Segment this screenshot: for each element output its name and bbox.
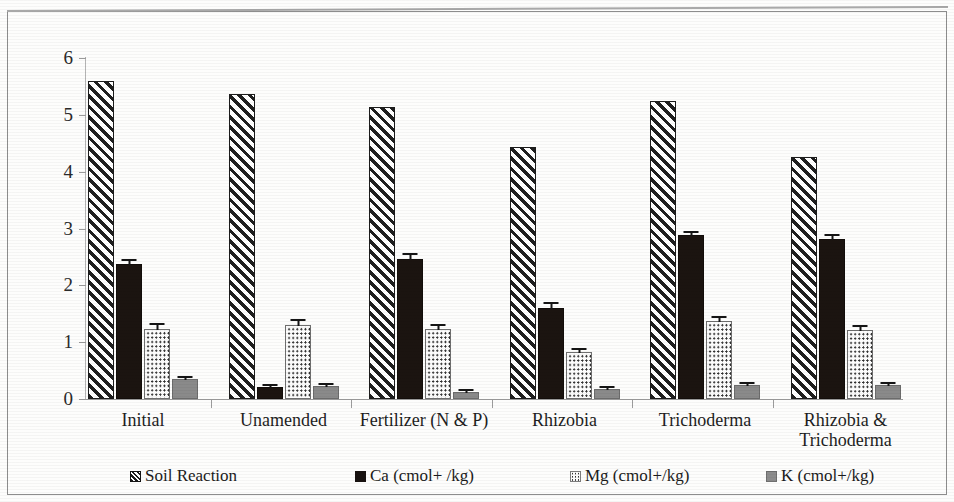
legend-swatch-icon bbox=[766, 471, 777, 482]
error-bar-stem bbox=[157, 323, 159, 330]
bar bbox=[819, 239, 845, 399]
bar bbox=[397, 259, 423, 399]
error-bar-stem bbox=[325, 383, 327, 387]
error-bar bbox=[122, 259, 137, 265]
x-axis-category-label-line: Rhizobia & bbox=[761, 410, 931, 430]
error-bar bbox=[824, 234, 839, 240]
y-axis-tick: 5 bbox=[26, 115, 73, 116]
error-bar-stem bbox=[550, 302, 552, 309]
y-axis-tick-label: 1 bbox=[33, 332, 73, 351]
bar bbox=[229, 94, 255, 399]
error-bar-stem bbox=[719, 316, 721, 322]
error-bar-cap bbox=[262, 384, 277, 386]
chart-legend: Soil ReactionCa (cmol+ /kg)Mg (cmol+/kg)… bbox=[0, 466, 954, 494]
error-bar-stem bbox=[831, 234, 833, 240]
legend-item[interactable]: K (cmol+/kg) bbox=[766, 466, 874, 486]
error-bar-cap bbox=[880, 382, 895, 384]
y-axis-tick-label: 2 bbox=[33, 275, 73, 294]
bar-group-bars bbox=[88, 58, 198, 399]
bar bbox=[369, 107, 395, 399]
error-bar bbox=[740, 382, 755, 386]
error-bar-cap bbox=[122, 259, 137, 261]
legend-swatch-icon bbox=[570, 471, 581, 482]
plot-canvas: 6543210 InitialUnamendedFertilizer (N & … bbox=[0, 0, 954, 502]
error-bar-stem bbox=[747, 382, 749, 386]
error-bar-cap bbox=[571, 348, 586, 350]
y-axis-tick-label: 3 bbox=[33, 219, 73, 238]
error-bar-cap bbox=[712, 316, 727, 318]
error-bar bbox=[262, 384, 277, 388]
bar bbox=[144, 329, 170, 399]
bar bbox=[116, 264, 142, 399]
legend-item[interactable]: Ca (cmol+ /kg) bbox=[355, 466, 474, 486]
y-axis-tick: 4 bbox=[26, 172, 73, 173]
bar bbox=[734, 385, 760, 399]
bar bbox=[425, 329, 451, 399]
error-bar bbox=[178, 376, 193, 380]
bar bbox=[875, 385, 901, 399]
error-bar-cap bbox=[178, 376, 193, 378]
bar-group-bars bbox=[650, 58, 760, 399]
error-bar-cap bbox=[318, 383, 333, 385]
error-bar bbox=[712, 316, 727, 322]
error-bar-cap bbox=[740, 382, 755, 384]
error-bar-stem bbox=[297, 319, 299, 326]
error-bar-stem bbox=[185, 376, 187, 380]
error-bar bbox=[459, 389, 474, 393]
error-bar-cap bbox=[599, 386, 614, 388]
y-axis-tick-mark bbox=[79, 229, 86, 230]
error-bar-stem bbox=[466, 389, 468, 393]
error-bar-stem bbox=[606, 386, 608, 390]
x-axis-category-label: Rhizobia &Trichoderma bbox=[761, 410, 931, 450]
x-axis-group-separator bbox=[492, 400, 493, 408]
y-axis-tick-label: 5 bbox=[33, 105, 73, 124]
bar bbox=[706, 321, 732, 399]
bar bbox=[594, 389, 620, 399]
y-axis-tick: 2 bbox=[26, 285, 73, 286]
legend-item[interactable]: Soil Reaction bbox=[130, 466, 237, 486]
error-bar-stem bbox=[691, 231, 693, 236]
error-bar bbox=[290, 319, 305, 326]
y-axis-tick-mark bbox=[79, 115, 86, 116]
error-bar bbox=[880, 382, 895, 386]
x-axis-group-separator bbox=[211, 400, 212, 408]
x-axis-group-separator bbox=[632, 400, 633, 408]
error-bar bbox=[150, 323, 165, 330]
y-axis-tick-mark bbox=[79, 58, 86, 59]
y-axis-tick: 3 bbox=[26, 229, 73, 230]
error-bar-stem bbox=[129, 259, 131, 265]
legend-label: Mg (cmol+/kg) bbox=[585, 466, 690, 486]
error-bar-cap bbox=[431, 324, 446, 326]
error-bar-cap bbox=[824, 234, 839, 236]
error-bar bbox=[852, 325, 867, 331]
error-bar bbox=[684, 231, 699, 236]
bar bbox=[678, 235, 704, 399]
legend-label: Ca (cmol+ /kg) bbox=[370, 466, 474, 486]
error-bar-cap bbox=[684, 231, 699, 233]
x-axis-line bbox=[85, 399, 903, 400]
legend-label: K (cmol+/kg) bbox=[781, 466, 874, 486]
legend-swatch-icon bbox=[355, 471, 366, 482]
error-bar-cap bbox=[290, 319, 305, 321]
error-bar bbox=[431, 324, 446, 329]
bar-group-bars bbox=[791, 58, 901, 399]
error-bar bbox=[403, 253, 418, 259]
error-bar bbox=[599, 386, 614, 390]
x-axis-group-separator bbox=[773, 400, 774, 408]
x-axis-category-label-line: Trichoderma bbox=[761, 430, 931, 450]
y-axis-tick-label: 4 bbox=[33, 162, 73, 181]
y-axis-tick-mark bbox=[79, 285, 86, 286]
error-bar-cap bbox=[543, 302, 558, 304]
bar-group-bars bbox=[229, 58, 339, 399]
legend-swatch-icon bbox=[130, 471, 141, 482]
y-axis-tick-mark bbox=[79, 172, 86, 173]
error-bar-stem bbox=[410, 253, 412, 259]
bar bbox=[538, 308, 564, 399]
bar bbox=[510, 147, 536, 399]
bar bbox=[650, 101, 676, 399]
legend-item[interactable]: Mg (cmol+/kg) bbox=[570, 466, 690, 486]
error-bar-cap bbox=[459, 389, 474, 391]
y-axis-tick: 6 bbox=[26, 58, 73, 59]
y-axis-tick-mark bbox=[79, 342, 86, 343]
error-bar-cap bbox=[403, 253, 418, 255]
